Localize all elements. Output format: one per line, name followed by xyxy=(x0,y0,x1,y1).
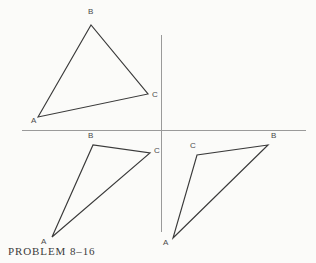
geometry-diagram xyxy=(0,0,316,263)
triangle-upper-left xyxy=(38,25,148,117)
figure-caption: PROBLEM 8–16 xyxy=(8,245,96,257)
axis-group xyxy=(22,35,306,232)
triangle-upper-left-vertex-label-a: A xyxy=(31,117,37,125)
triangle-upper-left-vertex-label-b: B xyxy=(88,8,94,16)
triangle-lower-right-vertex-label-c: C xyxy=(190,142,196,150)
triangle-upper-left-vertex-label-c: C xyxy=(152,91,158,99)
triangle-lower-right-vertex-label-b: B xyxy=(271,132,277,140)
figure-container: ABCABCABC PROBLEM 8–16 xyxy=(0,0,316,263)
triangle-lower-left xyxy=(52,145,150,237)
triangle-lower-right-vertex-label-a: A xyxy=(163,239,169,247)
triangle-group xyxy=(38,25,268,238)
triangle-lower-left-vertex-label-c: C xyxy=(154,147,160,155)
triangle-lower-left-vertex-label-b: B xyxy=(88,132,94,140)
triangle-lower-right xyxy=(173,145,268,238)
